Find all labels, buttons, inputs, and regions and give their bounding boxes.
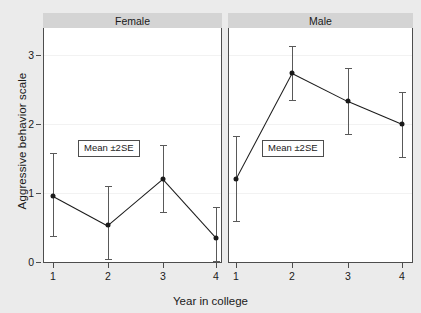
x-tick-mark	[216, 263, 217, 268]
gridline	[43, 55, 222, 56]
error-bar-cap-upper	[160, 145, 167, 146]
y-tick-label: 1	[8, 187, 34, 199]
error-bar-cap-lower	[105, 259, 112, 260]
error-bar-cap-upper	[105, 186, 112, 187]
y-tick-label: 2	[8, 118, 34, 130]
x-axis-title: Year in college	[0, 295, 421, 307]
y-tick-mark	[36, 55, 41, 56]
line-segment	[108, 179, 164, 226]
panel-bottom-spine	[228, 262, 413, 263]
error-bar	[216, 207, 217, 261]
y-tick-label: 3	[8, 49, 34, 61]
gridline	[228, 124, 413, 125]
error-bar-cap-lower	[399, 157, 406, 158]
error-bar-cap-lower	[160, 212, 167, 213]
data-point-marker	[234, 176, 239, 181]
line-segment	[162, 179, 216, 239]
line-segment	[53, 196, 109, 227]
error-bar-cap-upper	[289, 46, 296, 47]
x-tick-mark	[348, 263, 349, 268]
error-bar-cap-upper	[233, 136, 240, 137]
gridline	[43, 193, 222, 194]
x-tick-label: 1	[226, 270, 246, 282]
error-bar-cap-upper	[399, 92, 406, 93]
data-point-marker	[346, 99, 351, 104]
error-bar-cap-lower	[289, 100, 296, 101]
panel-left-spine	[228, 28, 229, 263]
gridline	[228, 193, 413, 194]
x-tick-label: 2	[98, 270, 118, 282]
error-bar-cap-upper	[213, 207, 220, 208]
plot-area-female: Mean ±2SE	[43, 28, 222, 262]
data-point-marker	[290, 70, 295, 75]
annotation-mean-2se: Mean ±2SE	[78, 140, 140, 157]
x-tick-mark	[163, 263, 164, 268]
x-tick-label: 3	[338, 270, 358, 282]
error-bar-cap-lower	[233, 221, 240, 222]
chart-panel-male: MaleMean ±2SE	[228, 13, 413, 263]
x-tick-label: 4	[206, 270, 226, 282]
x-tick-mark	[108, 263, 109, 268]
x-tick-label: 2	[282, 270, 302, 282]
y-tick-mark	[36, 124, 41, 125]
panel-right-spine	[221, 28, 222, 263]
panel-bottom-spine	[43, 262, 222, 263]
x-tick-mark	[292, 263, 293, 268]
plot-area-male: Mean ±2SE	[228, 28, 413, 262]
x-tick-mark	[402, 263, 403, 268]
panel-title: Male	[309, 15, 332, 27]
data-point-marker	[106, 223, 111, 228]
panel-title: Female	[115, 15, 150, 27]
line-segment	[292, 73, 349, 103]
gridline	[228, 55, 413, 56]
panel-header-female: Female	[43, 13, 222, 28]
line-segment	[235, 73, 292, 179]
error-bar-cap-upper	[345, 68, 352, 69]
line-segment	[348, 101, 403, 125]
x-tick-label: 3	[153, 270, 173, 282]
data-point-marker	[214, 235, 219, 240]
panel-header-male: Male	[228, 13, 413, 28]
y-tick-label: 0	[8, 256, 34, 268]
y-tick-mark	[36, 193, 41, 194]
x-tick-label: 4	[392, 270, 412, 282]
panel-right-spine	[412, 28, 413, 263]
data-point-marker	[51, 193, 56, 198]
data-point-marker	[400, 122, 405, 127]
error-bar-cap-lower	[50, 236, 57, 237]
chart-figure: Aggressive behavior scale Year in colleg…	[0, 0, 421, 313]
x-tick-mark	[53, 263, 54, 268]
error-bar-cap-lower	[345, 134, 352, 135]
data-point-marker	[161, 177, 166, 182]
x-tick-mark	[236, 263, 237, 268]
y-tick-mark	[36, 262, 41, 263]
chart-panel-female: FemaleMean ±2SE	[43, 13, 222, 263]
error-bar-cap-upper	[50, 153, 57, 154]
gridline	[43, 124, 222, 125]
panel-left-spine	[43, 28, 44, 263]
x-tick-label: 1	[43, 270, 63, 282]
annotation-mean-2se: Mean ±2SE	[262, 140, 324, 157]
